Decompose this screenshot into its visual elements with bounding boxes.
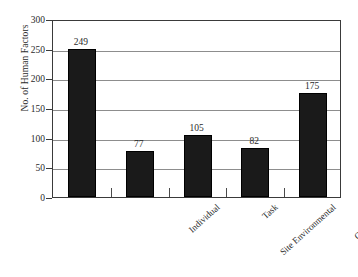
bar-chart-figure: No. of Human Factors 300250200150100500 … bbox=[0, 0, 358, 277]
y-tick-label-250: 250 bbox=[5, 44, 45, 56]
bar-value-label-organization: 82 bbox=[230, 135, 278, 147]
y-tick-label-0: 0 bbox=[5, 192, 45, 204]
bar-individual bbox=[68, 49, 96, 197]
y-tick-label-300: 300 bbox=[5, 14, 45, 26]
y-tick-label-50: 50 bbox=[5, 162, 45, 174]
y-tick-mark-0 bbox=[46, 198, 52, 199]
bar-site-environmental bbox=[184, 135, 212, 197]
y-tick-label-100: 100 bbox=[5, 133, 45, 145]
x-separator-tick-1 bbox=[111, 188, 112, 197]
x-separator-tick-2 bbox=[169, 188, 170, 197]
bar-organization bbox=[241, 148, 269, 197]
gridline-150 bbox=[53, 110, 340, 111]
y-tick-label-150: 150 bbox=[5, 103, 45, 115]
bar-value-label-task: 77 bbox=[115, 138, 163, 150]
x-separator-tick-3 bbox=[226, 188, 227, 197]
gridline-250 bbox=[53, 51, 340, 52]
y-tick-label-200: 200 bbox=[5, 73, 45, 85]
bar-value-label-individual: 249 bbox=[57, 36, 105, 48]
x-separator-tick-4 bbox=[284, 188, 285, 197]
bar-administrative bbox=[299, 93, 327, 197]
bar-task bbox=[126, 151, 154, 197]
bar-value-label-administrative: 175 bbox=[288, 80, 336, 92]
bar-value-label-site-environmental: 105 bbox=[173, 122, 221, 134]
